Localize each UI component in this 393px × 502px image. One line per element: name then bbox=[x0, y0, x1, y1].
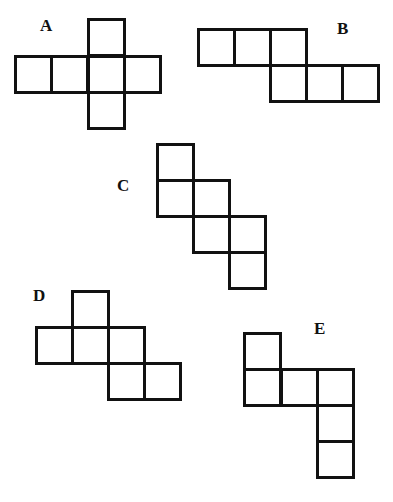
net-square bbox=[107, 326, 146, 365]
net-square bbox=[305, 64, 344, 103]
net-square bbox=[192, 215, 231, 254]
net-square bbox=[197, 28, 236, 67]
net-square bbox=[280, 368, 319, 407]
net-square bbox=[87, 55, 126, 94]
net-square bbox=[341, 64, 380, 103]
net-square bbox=[87, 91, 126, 130]
net-square bbox=[156, 143, 195, 182]
figure-label: D bbox=[33, 287, 45, 304]
net-square bbox=[228, 251, 267, 290]
net-square bbox=[243, 332, 282, 371]
net-square bbox=[316, 368, 355, 407]
net-square bbox=[192, 179, 231, 218]
net-square bbox=[143, 362, 182, 401]
net-square bbox=[316, 404, 355, 443]
figure-label: C bbox=[117, 177, 129, 194]
net-square bbox=[123, 55, 162, 94]
net-square bbox=[269, 28, 308, 67]
net-square bbox=[316, 440, 355, 479]
figure-label: E bbox=[314, 320, 325, 337]
net-square bbox=[50, 55, 89, 94]
net-square bbox=[269, 64, 308, 103]
net-square bbox=[87, 18, 126, 57]
net-square bbox=[71, 290, 110, 329]
net-square bbox=[156, 179, 195, 218]
net-square bbox=[228, 215, 267, 254]
net-square bbox=[107, 362, 146, 401]
net-square bbox=[71, 326, 110, 365]
cube-nets-diagram: ABCDE bbox=[0, 0, 393, 502]
net-square bbox=[233, 28, 272, 67]
net-square bbox=[243, 368, 282, 407]
figure-label: B bbox=[337, 20, 348, 37]
net-square bbox=[14, 55, 53, 94]
net-square bbox=[35, 326, 74, 365]
figure-label: A bbox=[40, 17, 52, 34]
